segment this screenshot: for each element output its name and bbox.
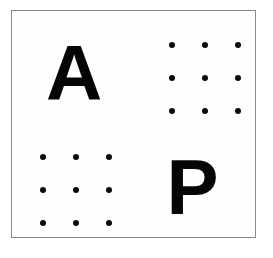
dot <box>235 108 241 114</box>
dot <box>106 154 112 160</box>
dot <box>202 108 208 114</box>
dot-array-bottom-left <box>40 154 112 226</box>
dot <box>40 187 46 193</box>
quadrant-grid: A <box>12 11 255 237</box>
letter-p-glyph: P <box>167 148 219 226</box>
quadrant-bottom-right: P <box>134 124 256 237</box>
dot <box>73 154 79 160</box>
dot <box>73 187 79 193</box>
dot <box>169 42 175 48</box>
quadrant-bottom-left <box>12 124 134 237</box>
dot <box>169 108 175 114</box>
dot-array-top-right <box>169 42 241 114</box>
stimulus-card-frame: A <box>11 10 256 238</box>
dot <box>169 75 175 81</box>
dot <box>40 220 46 226</box>
dot <box>235 42 241 48</box>
dot <box>73 220 79 226</box>
quadrant-top-right <box>134 11 256 124</box>
dot <box>202 42 208 48</box>
letter-a-glyph: A <box>46 34 102 112</box>
dot <box>40 154 46 160</box>
dot <box>106 220 112 226</box>
page-background: A <box>0 0 273 258</box>
dot <box>235 75 241 81</box>
quadrant-top-left: A <box>12 11 134 124</box>
dot <box>202 75 208 81</box>
dot <box>106 187 112 193</box>
